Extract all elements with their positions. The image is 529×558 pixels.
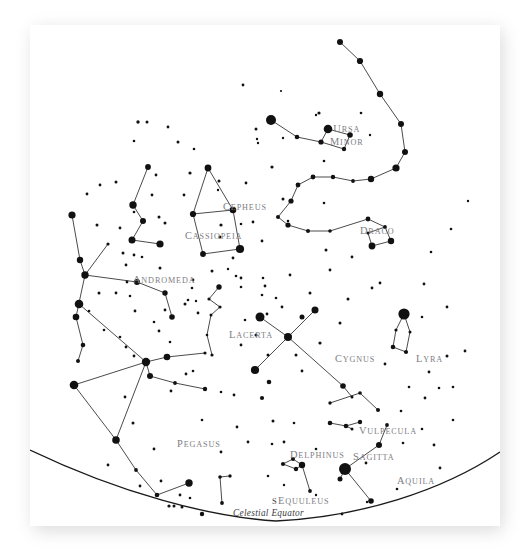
star-dot xyxy=(323,160,326,163)
star-dot xyxy=(408,386,411,389)
star-dot xyxy=(236,426,239,429)
label-line: Andromeda xyxy=(133,274,195,287)
star-dot xyxy=(68,211,75,218)
star-dot xyxy=(438,387,441,390)
star-dot xyxy=(281,462,285,466)
star-dot xyxy=(134,310,137,313)
constellation-lines-equuleus xyxy=(220,476,230,503)
star-dot xyxy=(289,274,292,277)
star-dot xyxy=(86,193,89,196)
constellation-line xyxy=(116,362,146,440)
star-dot xyxy=(240,286,243,289)
constellation-line xyxy=(157,483,189,495)
star-dot xyxy=(177,141,180,144)
star-dot xyxy=(155,493,160,498)
constellation-label-cygnus: Cygnus xyxy=(335,353,375,366)
label-line: Draco xyxy=(360,225,395,238)
star-dot xyxy=(294,467,298,471)
constellation-label-delphinus: Delphinus xyxy=(290,449,345,462)
constellation-line xyxy=(330,393,360,403)
star-dot xyxy=(220,501,224,505)
star-dot xyxy=(328,421,333,426)
star-dot xyxy=(233,394,236,397)
constellation-line xyxy=(278,201,291,217)
star-dot xyxy=(351,396,354,399)
star-dot xyxy=(308,489,312,493)
star-dot xyxy=(151,194,154,197)
star-dot xyxy=(205,165,212,172)
star-dot xyxy=(299,462,305,468)
star-dot xyxy=(261,294,264,297)
star-dot xyxy=(103,329,106,332)
star-dot xyxy=(185,479,192,486)
star-dot xyxy=(366,501,368,503)
star-dot xyxy=(282,137,284,139)
star-dot xyxy=(122,252,125,255)
star-dot xyxy=(191,287,194,290)
star-dot xyxy=(329,269,332,272)
star-dot xyxy=(96,224,99,227)
constellation-lines-vulpecula xyxy=(330,393,378,410)
star-dot xyxy=(421,316,424,319)
star-dot xyxy=(134,468,138,472)
star-dot xyxy=(235,275,238,278)
star-dot xyxy=(184,303,187,306)
star-dot xyxy=(125,264,128,267)
star-dot xyxy=(351,428,354,431)
constellation-line xyxy=(76,275,85,317)
constellation-line xyxy=(333,177,353,181)
star-dot xyxy=(210,314,213,317)
sky-map xyxy=(30,25,500,526)
constellation-line xyxy=(340,42,360,61)
star-dot xyxy=(285,222,290,227)
star-dot xyxy=(162,290,167,295)
star-dot xyxy=(164,309,167,312)
star-dot xyxy=(433,444,436,447)
star-dot xyxy=(146,121,149,124)
star-dot xyxy=(201,419,204,422)
constellation-line xyxy=(74,362,146,385)
star-dot xyxy=(357,58,363,64)
star-dot xyxy=(296,183,301,188)
star-dot xyxy=(283,484,285,486)
constellation-line xyxy=(360,61,380,94)
star-dot xyxy=(129,237,136,244)
star-dot xyxy=(142,358,150,366)
star-dot xyxy=(125,346,128,349)
constellation-line xyxy=(345,469,371,501)
star-dot xyxy=(155,174,158,177)
constellation-lines-andromeda xyxy=(72,215,172,361)
star-dot xyxy=(392,164,399,171)
star-dot xyxy=(368,176,374,182)
star-dot xyxy=(409,331,412,334)
star-dot xyxy=(75,300,84,309)
star-dot xyxy=(197,312,200,315)
star-dot xyxy=(185,373,188,376)
star-dot xyxy=(339,322,342,325)
constellation-line xyxy=(203,249,240,254)
star-dot xyxy=(220,391,223,394)
star-dot xyxy=(388,238,394,244)
constellation-label-lacerta: Lacerta xyxy=(229,329,273,342)
star-dot xyxy=(264,285,267,288)
star-dot xyxy=(115,292,118,295)
star-dot xyxy=(402,442,405,445)
star-dot xyxy=(195,300,197,302)
star-dot xyxy=(81,271,88,278)
star-dot xyxy=(240,223,243,226)
star-dot xyxy=(124,396,127,399)
star-dot xyxy=(358,391,362,395)
star-dot xyxy=(169,341,172,344)
star-field-group xyxy=(68,39,469,516)
star-dot xyxy=(217,189,219,191)
star-dot xyxy=(107,464,110,467)
star-dot xyxy=(200,512,204,516)
constellation-label-pegasus: Pegasus xyxy=(177,438,221,451)
star-dot xyxy=(132,422,135,425)
star-dot xyxy=(267,475,270,478)
constellation-line xyxy=(175,383,205,389)
constellation-line xyxy=(401,124,405,152)
star-dot xyxy=(344,424,349,429)
star-dot xyxy=(295,135,300,140)
star-dot xyxy=(293,422,296,425)
